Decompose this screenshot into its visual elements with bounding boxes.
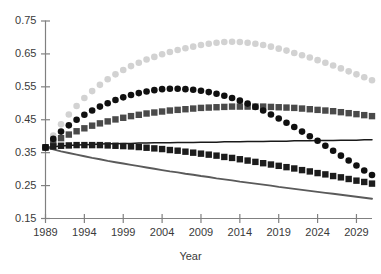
x-axis-tick-label: 2029 bbox=[334, 226, 378, 238]
data-point-marker bbox=[322, 60, 329, 67]
data-point-marker bbox=[182, 106, 188, 112]
data-point-marker bbox=[66, 111, 73, 118]
data-point-marker bbox=[58, 143, 64, 149]
data-point-marker bbox=[120, 143, 126, 149]
data-point-marker bbox=[128, 92, 135, 99]
data-point-marker bbox=[120, 67, 127, 74]
x-axis-tick-label: 1999 bbox=[101, 226, 145, 238]
data-point-marker bbox=[237, 97, 244, 104]
data-point-marker bbox=[190, 43, 197, 50]
data-point-marker bbox=[229, 95, 236, 102]
data-point-marker bbox=[314, 107, 320, 113]
data-point-marker bbox=[275, 115, 282, 122]
data-point-marker bbox=[143, 56, 150, 63]
data-point-marker bbox=[73, 128, 79, 134]
data-point-marker bbox=[260, 107, 267, 114]
data-point-marker bbox=[50, 136, 57, 143]
data-point-marker bbox=[104, 100, 111, 107]
x-axis-tick-label: 1989 bbox=[24, 226, 68, 238]
y-axis-tick-label: 0.65 bbox=[0, 47, 37, 59]
data-point-marker bbox=[291, 105, 297, 111]
data-point-marker bbox=[198, 150, 204, 156]
data-point-marker bbox=[112, 71, 119, 78]
data-point-marker bbox=[58, 121, 65, 128]
data-point-marker bbox=[330, 62, 337, 69]
data-point-marker bbox=[198, 87, 205, 94]
data-point-marker bbox=[369, 77, 376, 84]
data-point-marker bbox=[66, 122, 73, 129]
data-point-marker bbox=[213, 90, 220, 97]
data-point-marker bbox=[81, 95, 88, 102]
data-point-marker bbox=[136, 112, 142, 118]
data-point-marker bbox=[345, 110, 351, 116]
data-point-marker bbox=[322, 107, 328, 113]
x-axis-tick-label: 2014 bbox=[218, 226, 262, 238]
x-axis-tick-label: 2004 bbox=[140, 226, 184, 238]
data-point-marker bbox=[174, 47, 181, 54]
data-point-marker bbox=[135, 60, 142, 67]
data-point-marker bbox=[322, 142, 329, 149]
data-point-marker bbox=[151, 54, 158, 61]
data-point-marker bbox=[299, 52, 306, 59]
data-point-marker bbox=[89, 122, 95, 128]
data-point-marker bbox=[151, 87, 158, 94]
data-point-marker bbox=[136, 144, 142, 150]
data-point-marker bbox=[167, 49, 174, 56]
data-point-marker bbox=[345, 157, 352, 164]
data-point-marker bbox=[221, 154, 227, 160]
y-axis-tick-label: 0.45 bbox=[0, 113, 37, 125]
data-point-marker bbox=[206, 151, 212, 157]
data-point-marker bbox=[221, 104, 227, 110]
data-point-marker bbox=[66, 142, 72, 148]
data-point-marker bbox=[229, 38, 236, 45]
data-point-marker bbox=[338, 109, 344, 115]
data-point-marker bbox=[50, 143, 56, 149]
x-axis-tick-label: 1994 bbox=[62, 226, 106, 238]
data-point-marker bbox=[314, 57, 321, 64]
data-point-marker bbox=[66, 131, 72, 137]
data-point-marker bbox=[283, 119, 290, 126]
data-point-marker bbox=[89, 142, 95, 148]
data-point-marker bbox=[42, 144, 49, 151]
data-point-marker bbox=[97, 103, 104, 110]
chart-container: 0.150.250.350.450.550.650.75198919941999… bbox=[0, 0, 381, 274]
data-point-marker bbox=[369, 172, 376, 179]
data-point-marker bbox=[174, 147, 180, 153]
data-point-marker bbox=[244, 39, 251, 46]
data-point-marker bbox=[307, 54, 314, 61]
data-point-marker bbox=[143, 110, 149, 116]
data-point-marker bbox=[353, 177, 359, 183]
data-point-marker bbox=[229, 103, 235, 109]
data-point-marker bbox=[151, 109, 157, 115]
data-point-marker bbox=[182, 45, 189, 52]
data-point-marker bbox=[190, 149, 196, 155]
data-point-marker bbox=[291, 165, 297, 171]
data-point-marker bbox=[369, 180, 375, 186]
data-point-marker bbox=[213, 39, 220, 46]
data-point-marker bbox=[283, 47, 290, 54]
data-point-marker bbox=[330, 147, 337, 154]
data-point-marker bbox=[151, 145, 157, 151]
data-point-marker bbox=[338, 174, 344, 180]
data-point-marker bbox=[299, 167, 305, 173]
y-axis-tick-label: 0.35 bbox=[0, 146, 37, 158]
y-axis-tick-label: 0.15 bbox=[0, 212, 37, 224]
data-point-marker bbox=[198, 42, 205, 49]
data-point-marker bbox=[167, 107, 173, 113]
data-point-marker bbox=[252, 104, 259, 111]
data-point-marker bbox=[361, 112, 367, 118]
data-point-marker bbox=[104, 142, 110, 148]
data-point-marker bbox=[167, 147, 173, 153]
x-axis-tick-label: 2009 bbox=[179, 226, 223, 238]
data-point-marker bbox=[112, 97, 119, 104]
data-point-marker bbox=[128, 63, 135, 70]
data-point-marker bbox=[182, 148, 188, 154]
x-axis-title: Year bbox=[0, 250, 381, 262]
data-point-marker bbox=[58, 128, 65, 135]
data-point-marker bbox=[128, 113, 134, 119]
data-point-marker bbox=[104, 118, 110, 124]
data-point-marker bbox=[268, 111, 275, 118]
data-point-marker bbox=[237, 39, 244, 46]
data-point-marker bbox=[361, 179, 367, 185]
data-point-marker bbox=[291, 124, 298, 131]
